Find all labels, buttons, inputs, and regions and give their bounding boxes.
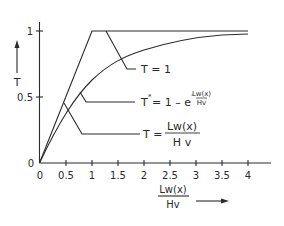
annotation-exp-num: Lw(x) [192, 90, 211, 98]
annotation-linear-num: Lw(x) [167, 120, 197, 133]
annotation-exp-prefix: T [140, 96, 148, 109]
x-tick-1: 1 [89, 170, 95, 181]
y-tick-0: 0 [28, 158, 34, 169]
annotation-exp-den: Hv [197, 99, 206, 107]
x-tick-2.5: 2.5 [162, 170, 178, 181]
leader-linear [64, 103, 140, 134]
x-tick-0: 0 [37, 170, 43, 181]
y-tick-1: 1 [27, 26, 33, 37]
y-tick-0.5: 0.5 [17, 92, 33, 103]
y-axis-label: T [13, 76, 21, 89]
leader-exp [80, 92, 135, 102]
annotation-exp-eq: = 1 – e [152, 96, 191, 109]
x-tick-4: 4 [245, 170, 251, 181]
x-tick-3.5: 3.5 [214, 170, 230, 181]
chart-canvas: 1 0.5 0 0 0.5 1 1.5 2 2.5 3 3.5 4 T Lw(x… [0, 0, 284, 226]
x-tick-1.5: 1.5 [110, 170, 126, 181]
x-tick-2: 2 [141, 170, 147, 181]
x-tick-3: 3 [193, 170, 199, 181]
x-axis-label-numerator: Lw(x) [159, 184, 187, 195]
x-tick-0.5: 0.5 [58, 170, 74, 181]
x-axis-label-denominator: Hv [166, 199, 180, 210]
annotation-t-equals-1: T = 1 [140, 63, 171, 76]
annotation-linear-prefix: T = [142, 128, 162, 141]
annotation-linear-den: H v [173, 136, 192, 149]
leader-t1 [106, 31, 136, 69]
